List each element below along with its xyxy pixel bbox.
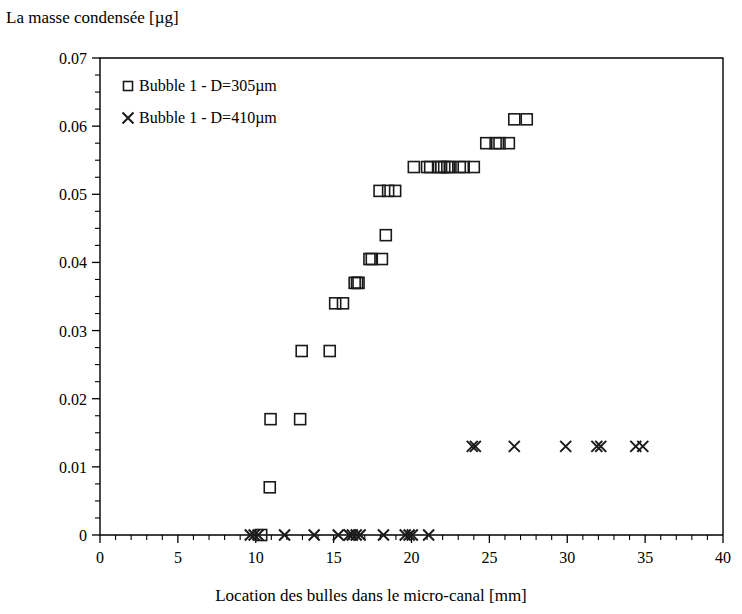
data-point-cross [560, 441, 571, 452]
data-point-square [295, 414, 306, 425]
legend-marker-cross [123, 113, 134, 124]
legend-label: Bubble 1 - D=305µm [139, 77, 277, 95]
y-tick-label: 0.01 [59, 459, 87, 476]
data-point-square [521, 114, 532, 125]
x-tick-label: 20 [404, 549, 420, 566]
x-tick-label: 0 [96, 549, 104, 566]
legend-marker-square [124, 82, 133, 91]
y-tick-label: 0.04 [59, 254, 87, 271]
data-point-square [422, 162, 433, 173]
x-tick-label: 35 [637, 549, 653, 566]
x-tick-label: 15 [326, 549, 342, 566]
x-tick-label: 25 [481, 549, 497, 566]
data-point-cross [637, 441, 648, 452]
data-point-square [509, 114, 520, 125]
data-point-square [324, 346, 335, 357]
data-point-square [408, 162, 419, 173]
data-point-square [390, 185, 401, 196]
y-tick-label: 0.03 [59, 323, 87, 340]
data-point-square [380, 230, 391, 241]
y-tick-label: 0.05 [59, 186, 87, 203]
legend-label: Bubble 1 - D=410µm [139, 109, 277, 127]
x-tick-label: 40 [715, 549, 731, 566]
plot-area: 051015202530354000.010.020.030.040.050.0… [0, 0, 742, 614]
plot-frame [100, 58, 723, 535]
y-tick-label: 0.02 [59, 391, 87, 408]
x-tick-label: 30 [559, 549, 575, 566]
chart-container: La masse condensée [µg] 0510152025303540… [0, 0, 742, 614]
x-tick-label: 5 [174, 549, 182, 566]
x-axis-title: Location des bulles dans le micro-canal … [0, 586, 742, 606]
x-tick-label: 10 [248, 549, 264, 566]
data-point-square [330, 298, 341, 309]
y-tick-label: 0.06 [59, 118, 87, 135]
data-point-square [265, 414, 276, 425]
data-point-square [296, 346, 307, 357]
y-tick-label: 0.07 [59, 50, 87, 67]
data-point-square [337, 298, 348, 309]
data-point-square [264, 482, 275, 493]
y-tick-label: 0 [79, 527, 87, 544]
data-point-cross [509, 441, 520, 452]
